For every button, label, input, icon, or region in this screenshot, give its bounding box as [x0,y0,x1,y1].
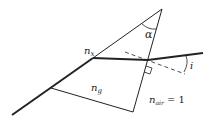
label-n-air: nair = 1 [149,94,185,106]
label-n-g: ng [91,82,102,95]
label-n-x: nx [84,45,94,58]
beam-outgoing [148,53,203,60]
surface-normal [125,52,185,74]
label-angle-i: i [190,60,193,71]
prism-diagram: α nx ng nair = 1 i [0,0,213,123]
angle-i-arc [184,56,187,72]
incident-ray [12,58,93,115]
beam-inside [93,58,148,60]
label-alpha: α [145,28,153,41]
